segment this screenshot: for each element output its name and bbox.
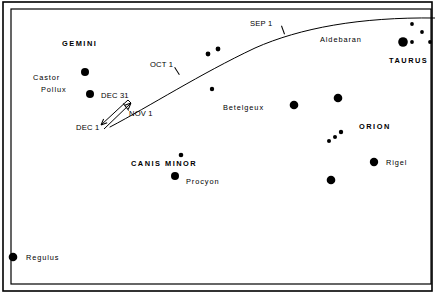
retrograde-loop-group (99, 100, 133, 129)
star-dot-regulus (9, 253, 18, 262)
star-dot-pleiades-3 (420, 30, 424, 34)
retrograde-loop-lower-line (101, 100, 128, 125)
star-dot-pollux (86, 90, 94, 98)
date-tick-sep-1 (281, 26, 284, 34)
star-dot-group (9, 22, 432, 261)
star-dot-pleiades-2 (410, 22, 414, 26)
star-dot-bellatrix (334, 94, 343, 103)
star-dot-pleiades-1 (410, 40, 414, 44)
planet-track-curve (110, 18, 435, 127)
star-dot-orion-belt-4 (327, 176, 336, 185)
date-tick-oct-1 (175, 67, 180, 75)
retrograde-loop-upper-line (104, 103, 131, 129)
star-dot-orion-belt-3 (339, 130, 343, 134)
star-dot-ecliptic-star-b (216, 47, 221, 52)
star-dot-gomeisa (179, 153, 184, 158)
star-dot-faint-star-mid (210, 87, 214, 91)
star-dot-rigel (370, 158, 378, 166)
star-dot-pleiades-4 (428, 40, 432, 44)
star-dot-castor (81, 68, 89, 76)
date-tick-group (123, 26, 284, 111)
figure-inner-border (11, 9, 431, 284)
star-dot-aldebaran (398, 37, 408, 47)
retrograde-loop-tip (128, 100, 131, 103)
star-chart-figure: GEMINICastorPolluxBetelgeuxORIONRigelAld… (0, 0, 435, 300)
star-dot-betelgeux (290, 101, 299, 110)
star-dot-ecliptic-star-a (206, 52, 211, 57)
star-chart-canvas (0, 0, 435, 300)
figure-outer-border (3, 2, 432, 291)
star-dot-procyon (171, 172, 179, 180)
star-dot-orion-belt-2 (333, 135, 337, 139)
star-dot-orion-belt-1 (327, 139, 331, 143)
